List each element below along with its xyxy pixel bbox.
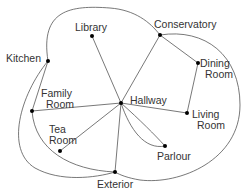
label-dining-room: DiningRoom [200,57,233,80]
edge-library-hallway [92,36,121,103]
label-parlour: Parlour [157,150,191,162]
label-living-room: LivingRoom [192,108,225,131]
node-hallway [119,101,123,105]
room-graph-diagram: KitchenLibraryConservatoryDiningRoomFami… [0,0,245,193]
node-family-room [30,109,34,113]
edge-conservatory-dining-room [160,35,198,63]
node-conservatory [158,33,162,37]
label-conservatory: Conservatory [154,18,217,30]
edge-dining-room-living-room [187,63,198,113]
node-exterior [113,170,117,174]
edge-hallway-exterior [115,103,121,172]
label-family-room: FamilyRoom [41,87,74,110]
node-parlour [163,144,167,148]
label-kitchen: Kitchen [6,52,41,64]
label-tea-room: TeaRoom [49,123,77,146]
edge-kitchen-conservatory [47,7,160,61]
label-exterior: Exterior [97,178,134,190]
node-living-room [185,111,189,115]
label-library: Library [75,21,108,33]
node-tea-room [58,149,62,153]
edge-hallway-parlour [121,103,165,147]
label-hallway: Hallway [130,94,168,106]
node-kitchen [46,59,50,63]
edge-conservatory-hallway [121,35,160,103]
node-library [90,34,94,38]
